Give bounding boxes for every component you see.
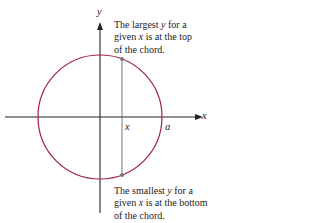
chord-top-point: [120, 57, 124, 61]
y-axis-label: y: [97, 6, 102, 18]
bottom-annotation: The smallest y for a given x is at the b…: [114, 185, 208, 222]
x-axis-label: x: [202, 110, 207, 122]
radius-a-label: a: [165, 121, 170, 133]
chord-x-label: x: [125, 121, 130, 133]
y-axis-arrow-icon: [97, 22, 103, 30]
top-annotation: The largest y for a given x is at the to…: [114, 19, 192, 56]
chord-bottom-point: [120, 173, 124, 177]
